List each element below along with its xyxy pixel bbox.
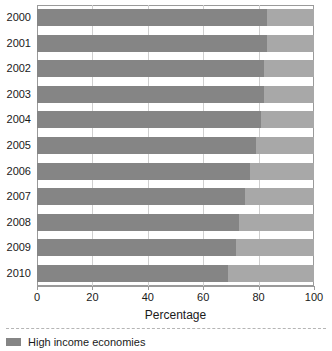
bar-row[interactable] bbox=[37, 86, 314, 103]
x-tick-mark-20 bbox=[92, 286, 93, 290]
y-tick-label-2001: 2001 bbox=[0, 35, 34, 52]
bar-row[interactable] bbox=[37, 9, 314, 26]
y-tick-label-2008: 2008 bbox=[0, 214, 34, 231]
bar-segment-primary[interactable] bbox=[37, 188, 245, 205]
y-tick-label-2000: 2000 bbox=[0, 9, 34, 26]
bar-segment-secondary[interactable] bbox=[256, 137, 314, 154]
bar-segment-primary[interactable] bbox=[37, 86, 264, 103]
y-tick-label-2002: 2002 bbox=[0, 60, 34, 77]
bar-series-layer bbox=[37, 5, 314, 286]
bar-row[interactable] bbox=[37, 239, 314, 256]
x-axis-title: Percentage bbox=[37, 308, 314, 322]
y-tick-label-2009: 2009 bbox=[0, 239, 34, 256]
bar-segment-secondary[interactable] bbox=[236, 239, 314, 256]
y-tick-label-2003: 2003 bbox=[0, 86, 34, 103]
bar-segment-primary[interactable] bbox=[37, 214, 239, 231]
bar-row[interactable] bbox=[37, 265, 314, 282]
y-tick-label-2005: 2005 bbox=[0, 137, 34, 154]
x-tick-mark-80 bbox=[259, 286, 260, 290]
legend-item[interactable]: High income economies bbox=[6, 336, 145, 348]
y-tick-label-2004: 2004 bbox=[0, 111, 34, 128]
bar-segment-primary[interactable] bbox=[37, 137, 256, 154]
x-tick-label-80: 80 bbox=[252, 291, 264, 303]
bar-segment-secondary[interactable] bbox=[245, 188, 314, 205]
x-tick-label-60: 60 bbox=[197, 291, 209, 303]
chart-legend: High income economies bbox=[0, 328, 332, 351]
bar-segment-primary[interactable] bbox=[37, 9, 267, 26]
bar-row[interactable] bbox=[37, 188, 314, 205]
x-tick-label-40: 40 bbox=[142, 291, 154, 303]
bar-row[interactable] bbox=[37, 60, 314, 77]
bar-segment-primary[interactable] bbox=[37, 35, 267, 52]
x-tick-mark-0 bbox=[37, 286, 38, 290]
bar-segment-secondary[interactable] bbox=[267, 9, 314, 26]
x-axis: 020406080100 Percentage bbox=[37, 286, 314, 326]
legend-divider bbox=[6, 328, 326, 329]
bar-segment-secondary[interactable] bbox=[261, 111, 314, 128]
bar-row[interactable] bbox=[37, 214, 314, 231]
x-tick-label-20: 20 bbox=[86, 291, 98, 303]
bar-segment-secondary[interactable] bbox=[228, 265, 314, 282]
x-tick-label-100: 100 bbox=[305, 291, 323, 303]
x-tick-mark-40 bbox=[148, 286, 149, 290]
bar-segment-primary[interactable] bbox=[37, 111, 261, 128]
bar-segment-primary[interactable] bbox=[37, 239, 236, 256]
bar-row[interactable] bbox=[37, 163, 314, 180]
chart-figure: 2000200120022003200420052006200720082009… bbox=[0, 0, 332, 351]
bar-row[interactable] bbox=[37, 35, 314, 52]
bar-segment-secondary[interactable] bbox=[264, 86, 314, 103]
bar-row[interactable] bbox=[37, 111, 314, 128]
y-axis-tick-labels: 2000200120022003200420052006200720082009… bbox=[0, 5, 34, 286]
legend-swatch-icon bbox=[6, 338, 21, 346]
y-tick-label-2007: 2007 bbox=[0, 188, 34, 205]
bar-segment-primary[interactable] bbox=[37, 265, 228, 282]
y-tick-label-2006: 2006 bbox=[0, 163, 34, 180]
x-axis-line bbox=[37, 286, 314, 287]
bar-row[interactable] bbox=[37, 137, 314, 154]
bar-segment-secondary[interactable] bbox=[267, 35, 314, 52]
bar-segment-secondary[interactable] bbox=[250, 163, 314, 180]
x-tick-mark-60 bbox=[203, 286, 204, 290]
bar-segment-primary[interactable] bbox=[37, 163, 250, 180]
x-tick-label-0: 0 bbox=[34, 291, 40, 303]
plot-area bbox=[37, 5, 314, 286]
x-tick-mark-100 bbox=[314, 286, 315, 290]
bar-segment-secondary[interactable] bbox=[264, 60, 314, 77]
legend-label: High income economies bbox=[28, 336, 145, 348]
bar-segment-primary[interactable] bbox=[37, 60, 264, 77]
bar-segment-secondary[interactable] bbox=[239, 214, 314, 231]
legend-items: High income economies bbox=[6, 336, 145, 348]
y-tick-label-2010: 2010 bbox=[0, 265, 34, 282]
